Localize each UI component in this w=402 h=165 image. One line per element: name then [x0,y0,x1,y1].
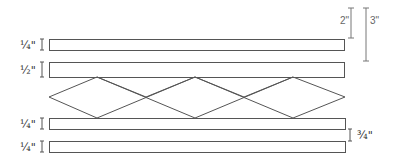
dimension-three-quarter-inch: ¾" [348,129,373,142]
i-beam-marker-icon [40,39,44,50]
lattice-seg-1 [97,77,146,97]
strip-2-rect [50,63,345,78]
strip-1-quarter-inch: ¼" [20,39,345,52]
strip-3-rect [50,119,346,130]
i-beam-marker-icon [40,62,44,77]
strip-2-label: ½" [20,64,36,77]
trellis-diagram: ¼" ½" ¼" [0,0,402,165]
dimension-2-inch-label: 2" [340,15,350,26]
strip-4-rect [50,142,346,153]
dimension-3-inch-label: 3" [370,15,380,26]
lattice-line-b [49,77,345,118]
dimension-three-quarter-inch-label: ¾" [357,129,373,142]
lattice-seg-3 [195,77,244,97]
lattice-line-a [49,77,345,118]
strip-3-quarter-inch: ¼" [20,118,346,131]
strip-4-label: ¼" [20,141,36,154]
dimension-bracket-icon [348,129,352,141]
strip-4-quarter-inch: ¼" [20,141,346,154]
dimension-bracket-icon [363,8,369,61]
lattice-diamonds [49,77,345,118]
lattice-seg-4 [244,77,293,97]
dimension-3-inch: 3" [363,8,380,61]
strip-1-rect [50,40,345,51]
dimension-2-inch: 2" [340,8,354,38]
strip-1-label: ¼" [20,39,36,52]
lattice-seg-2 [146,77,195,97]
strip-3-label: ¼" [20,118,36,131]
strip-2-half-inch: ½" [20,62,345,78]
i-beam-marker-icon [40,141,44,152]
i-beam-marker-icon [40,118,44,129]
